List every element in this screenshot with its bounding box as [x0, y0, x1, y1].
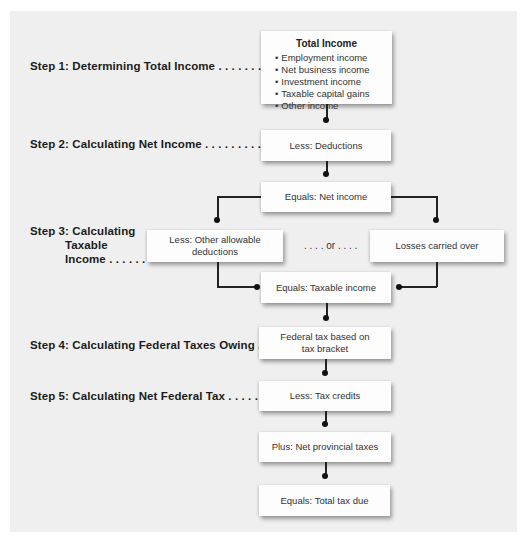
total-income-box: Total Income Employment income Net busin…: [261, 31, 392, 104]
connector-dot: [433, 217, 439, 223]
income-sources-list: Employment income Net business income In…: [261, 52, 392, 112]
step-5-label: Step 5: Calculating Net Federal Tax . . …: [30, 390, 284, 402]
total-tax-due-text: Equals: Total tax due: [280, 495, 368, 507]
step-3-label-line1: Step 3: Calculating: [30, 225, 135, 237]
connector-line: [326, 104, 328, 118]
income-item: Taxable capital gains: [275, 88, 392, 100]
connector-dot: [214, 217, 220, 223]
taxable-income-text: Equals: Taxable income: [276, 282, 376, 294]
connector-line: [217, 262, 219, 287]
connector-line: [217, 196, 261, 198]
federal-tax-text-line2: tax bracket: [302, 343, 348, 355]
other-deductions-box: Less: Other allowable deductions: [147, 230, 283, 262]
connector-dot: [322, 473, 328, 479]
net-income-box: Equals: Net income: [261, 182, 391, 212]
connector-dot: [254, 284, 260, 290]
connector-line: [217, 196, 219, 218]
connector-dot: [396, 284, 402, 290]
connector-dot: [322, 370, 328, 376]
federal-tax-box: Federal tax based on tax bracket: [259, 327, 391, 359]
income-item: Investment income: [275, 76, 392, 88]
step-3-label-line2: Taxable: [65, 239, 108, 251]
step-2-label: Step 2: Calculating Net Income . . . . .…: [30, 138, 287, 150]
connector-dot: [323, 171, 329, 177]
income-item: Employment income: [275, 52, 392, 64]
or-separator: . . . . or . . . .: [304, 240, 357, 251]
income-item: Net business income: [275, 64, 392, 76]
provincial-taxes-text: Plus: Net provincial taxes: [272, 441, 379, 453]
losses-carried-over-box: Losses carried over: [370, 230, 504, 262]
connector-line: [391, 196, 437, 198]
taxable-income-box: Equals: Taxable income: [261, 272, 391, 303]
income-item: Other income: [275, 100, 392, 112]
losses-text: Losses carried over: [396, 240, 479, 252]
provincial-taxes-box: Plus: Net provincial taxes: [259, 432, 391, 462]
step-4-label: Step 4: Calculating Federal Taxes Owing …: [30, 339, 281, 351]
deductions-box: Less: Deductions: [261, 130, 391, 161]
deductions-text: Less: Deductions: [290, 140, 363, 152]
tax-credits-box: Less: Tax credits: [259, 381, 391, 411]
total-tax-due-box: Equals: Total tax due: [259, 485, 390, 516]
connector-line: [436, 196, 438, 218]
step-3-label-line3: Income . . . . . .: [65, 253, 145, 265]
connector-line: [436, 262, 438, 287]
federal-tax-text-line1: Federal tax based on: [280, 331, 369, 343]
step-1-label: Step 1: Determining Total Income . . . .…: [30, 60, 288, 72]
connector-line: [399, 286, 437, 288]
connector-dot: [323, 117, 329, 123]
connector-line: [217, 286, 257, 288]
other-deductions-text: Less: Other allowable deductions: [147, 234, 283, 258]
connector-dot: [323, 315, 329, 321]
net-income-text: Equals: Net income: [285, 191, 367, 203]
tax-credits-text: Less: Tax credits: [290, 390, 361, 402]
total-income-title: Total Income: [261, 38, 392, 50]
connector-dot: [322, 421, 328, 427]
